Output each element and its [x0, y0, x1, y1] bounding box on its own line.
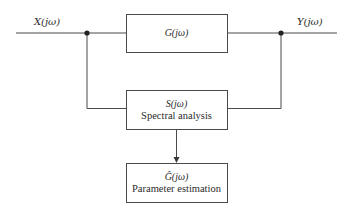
spectral-block-symbol: S(jω) [126, 98, 227, 110]
estimation-block-label: Parameter estimation [126, 183, 227, 195]
arrow-head-icon [174, 157, 180, 163]
system-block: G(jω) [126, 27, 227, 39]
output-branch-line [227, 33, 281, 109]
system-block-symbol: G(jω) [126, 27, 227, 39]
input-junction-dot [84, 30, 89, 35]
estimation-block: Ĝ(jω) Parameter estimation [126, 171, 227, 195]
input-signal-label: X(jω) [34, 16, 60, 27]
spectral-block-label: Spectral analysis [126, 110, 227, 122]
spectral-block: S(jω) Spectral analysis [126, 98, 227, 122]
estimation-block-symbol: Ĝ(jω) [126, 171, 227, 183]
output-signal-label: Y(jω) [297, 16, 323, 27]
output-junction-dot [278, 30, 283, 35]
block-diagram: X(jω) Y(jω) G(jω) S(jω) Spectral analysi… [0, 0, 349, 224]
input-branch-line [87, 33, 126, 109]
